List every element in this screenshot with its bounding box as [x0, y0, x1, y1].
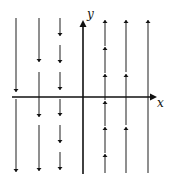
arrow-up-icon — [146, 20, 151, 23]
x-axis-arrowhead-icon — [150, 94, 157, 101]
vector-field-diagram — [0, 0, 170, 181]
x-axis-label: x — [157, 97, 164, 109]
arrow-down-icon — [58, 87, 63, 90]
arrow-up-icon — [103, 127, 108, 130]
arrow-up-icon — [103, 74, 108, 77]
vector-arrow — [103, 20, 108, 46]
arrow-down-icon — [37, 168, 42, 171]
vector-arrow — [58, 125, 63, 143]
vector-arrow — [58, 72, 63, 90]
vector-arrow — [124, 127, 129, 173]
vector-arrow — [14, 18, 19, 92]
arrow-up-icon — [124, 74, 129, 77]
vector-arrow — [37, 125, 42, 171]
vector-arrow — [103, 154, 108, 173]
vector-arrow — [58, 45, 63, 63]
vector-arrow — [37, 18, 42, 62]
coordinate-axes — [12, 20, 157, 174]
vector-arrow — [37, 72, 42, 117]
vector-arrow — [124, 20, 129, 72]
vector-arrow — [103, 101, 108, 126]
vector-arrow — [103, 47, 108, 73]
arrow-down-icon — [58, 60, 63, 63]
arrow-down-icon — [14, 169, 19, 172]
arrow-up-icon — [103, 47, 108, 50]
vector-arrow — [103, 74, 108, 100]
vector-arrow — [14, 99, 19, 172]
arrow-up-icon — [103, 154, 108, 157]
arrow-down-icon — [37, 114, 42, 117]
arrow-down-icon — [14, 89, 19, 92]
arrow-down-icon — [37, 59, 42, 62]
vector-arrow — [58, 99, 63, 116]
vector-arrow — [103, 127, 108, 153]
y-axis-label: y — [87, 8, 94, 20]
arrow-up-icon — [124, 20, 129, 23]
arrow-down-icon — [58, 33, 63, 36]
arrow-down-icon — [58, 113, 63, 116]
arrow-down-icon — [58, 140, 63, 143]
vector-arrows-group — [14, 18, 151, 173]
arrow-up-icon — [103, 20, 108, 23]
arrow-down-icon — [58, 167, 63, 170]
y-axis-arrowhead-icon — [80, 20, 87, 27]
vector-arrow — [124, 74, 129, 125]
arrow-up-icon — [124, 127, 129, 130]
vector-arrow — [58, 18, 63, 36]
vector-arrow — [58, 152, 63, 170]
arrow-up-icon — [103, 101, 108, 104]
